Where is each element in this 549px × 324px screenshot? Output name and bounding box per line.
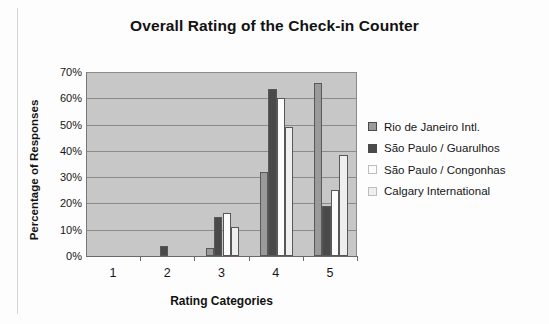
bar [314,83,322,256]
bar [260,172,268,256]
y-tick-label: 40% [46,145,82,157]
legend-label: São Paulo / Congonhas [384,164,505,176]
legend-item[interactable]: Rio de Janeiro Intl. [368,116,544,138]
bar [331,190,339,256]
scan-artifact-line [17,8,18,314]
chart-figure: Overall Rating of the Check-in Counter 0… [0,0,549,324]
chart-title: Overall Rating of the Check-in Counter [0,17,549,35]
x-tick-label: 5 [310,266,350,280]
y-axis-title: Percentage of Responses [28,75,40,265]
x-tick-label: 4 [256,266,296,280]
y-tick-label: 0% [46,250,82,262]
x-tick-mark [140,256,141,261]
bar [160,246,168,257]
bar [206,248,214,256]
legend-item[interactable]: São Paulo / Guarulhos [368,138,544,160]
bar [277,98,285,256]
y-tick-label: 70% [46,66,82,78]
legend-swatch-icon [368,122,377,131]
legend-label: Rio de Janeiro Intl. [384,121,480,133]
legend-swatch-icon [368,187,377,196]
x-tick-label: 1 [93,266,133,280]
bar [322,206,330,256]
x-tick-mark [249,256,250,261]
bar [231,227,239,256]
gridline [87,72,357,73]
y-tick-label: 30% [46,171,82,183]
chart-legend: Rio de Janeiro Intl.São Paulo / Guarulho… [368,116,544,202]
bar [223,213,231,256]
bar [285,127,293,256]
y-tick-label: 10% [46,224,82,236]
y-tick-label: 60% [46,92,82,104]
x-tick-label: 2 [147,266,187,280]
plot-right-border [356,72,357,256]
y-tick-label: 20% [46,197,82,209]
legend-swatch-icon [368,165,377,174]
x-tick-mark [303,256,304,261]
x-axis-line [86,256,357,257]
y-tick-label: 50% [46,119,82,131]
legend-label: São Paulo / Guarulhos [384,142,500,154]
x-axis-title: Rating Categories [86,294,357,308]
plot-area [86,72,357,256]
legend-item[interactable]: Calgary International [368,181,544,203]
bar [268,89,276,256]
x-tick-mark [357,256,358,261]
bar [339,155,347,256]
legend-item[interactable]: São Paulo / Congonhas [368,159,544,181]
x-tick-mark [194,256,195,261]
bar [214,217,222,256]
legend-swatch-icon [368,144,377,153]
x-tick-label: 3 [202,266,242,280]
legend-label: Calgary International [384,185,490,197]
y-axis-tick-labels: 0%10%20%30%40%50%60%70% [40,0,82,324]
